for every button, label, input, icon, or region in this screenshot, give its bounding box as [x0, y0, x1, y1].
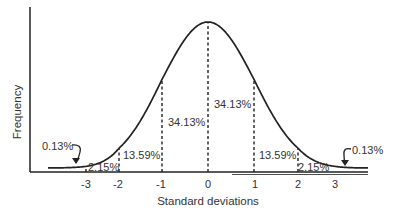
- right-tail-arrowhead: [341, 160, 349, 166]
- region-label-right-1-2: 13.59%: [259, 149, 297, 161]
- region-label-right-0-1: 34.13%: [214, 98, 252, 110]
- normal-distribution-chart: Frequency Standard deviations -3 -2 -1 0…: [0, 0, 397, 215]
- x-tick-label: 1: [252, 178, 258, 190]
- region-label-left-1-2: 13.59%: [123, 149, 161, 161]
- region-label-left-tail: 0.13%: [42, 140, 73, 152]
- x-axis-label: Standard deviations: [157, 195, 259, 207]
- x-tick-label: 3: [332, 178, 338, 190]
- region-label-left-2-3: 2.15%: [88, 161, 119, 173]
- region-label-left-0-1: 34.13%: [168, 116, 206, 128]
- left-tail-arrowhead: [72, 158, 80, 164]
- region-label-right-2-3: 2.15%: [298, 161, 329, 173]
- region-label-right-tail: 0.13%: [352, 144, 383, 156]
- x-tick-label: -2: [113, 178, 123, 190]
- x-tick-label: -1: [156, 178, 166, 190]
- y-axis-label: Frequency: [11, 85, 23, 140]
- x-tick-label: 2: [295, 178, 301, 190]
- x-tick-label: -3: [81, 178, 91, 190]
- x-tick-label: 0: [205, 178, 211, 190]
